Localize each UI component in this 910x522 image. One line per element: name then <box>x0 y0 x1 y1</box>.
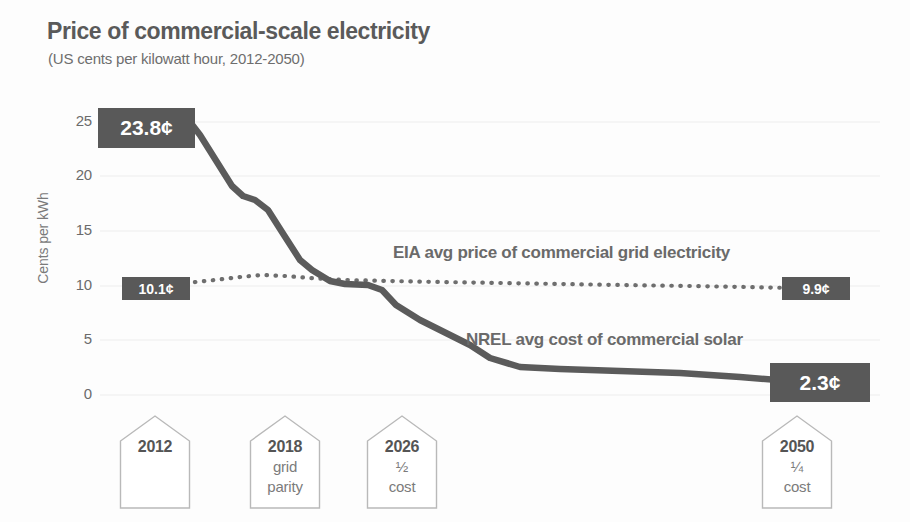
value-chip-nrel-end: 2.3¢ <box>770 363 870 402</box>
callout-year: 2050 <box>780 437 814 457</box>
ytick-25: 25 <box>58 112 92 129</box>
chart-page: Price of commercial-scale electricity (U… <box>0 0 910 522</box>
callout-line1: ½ <box>396 457 408 477</box>
callout-year: 2018 <box>268 437 302 457</box>
series-label-nrel: NREL avg cost of commercial solar <box>466 330 743 350</box>
ytick-0: 0 <box>58 385 92 402</box>
milestone-callout-2026: 2026 ½ cost <box>366 414 438 510</box>
callout-line2: cost <box>784 477 811 497</box>
callout-year: 2012 <box>138 437 172 457</box>
milestone-callout-2050: 2050 ¼ cost <box>761 414 833 510</box>
milestone-callout-2018: 2018 grid parity <box>249 414 321 510</box>
callout-line1: grid <box>273 457 297 477</box>
series-label-eia: EIA avg price of commercial grid electri… <box>393 243 730 263</box>
value-chip-nrel-start: 23.8¢ <box>98 108 195 148</box>
value-chip-eia-start: 10.1¢ <box>122 277 190 300</box>
ytick-20: 20 <box>58 166 92 183</box>
y-axis-title: Cents per kWh <box>35 173 51 303</box>
milestone-callout-2012: 2012 <box>119 414 191 510</box>
callout-line1: ¼ <box>791 457 803 477</box>
ytick-10: 10 <box>58 276 92 293</box>
callout-line2: cost <box>389 477 416 497</box>
callout-line2: parity <box>267 477 302 497</box>
ytick-15: 15 <box>58 221 92 238</box>
value-chip-eia-end: 9.9¢ <box>782 277 850 300</box>
ytick-5: 5 <box>58 330 92 347</box>
callout-year: 2026 <box>385 437 419 457</box>
